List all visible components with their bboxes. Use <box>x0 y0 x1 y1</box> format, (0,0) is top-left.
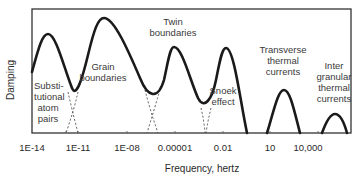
transverse-thermal-peak <box>267 90 300 133</box>
svg-text:Inter: Inter <box>324 60 343 71</box>
tick-label: 0.01 <box>214 142 233 153</box>
svg-text:thermal: thermal <box>267 55 299 66</box>
svg-text:boundaries: boundaries <box>149 27 196 38</box>
annotation-twin-boundaries: Twin boundaries <box>149 16 196 38</box>
svg-text:Substi-: Substi- <box>34 80 64 91</box>
svg-text:tutional: tutional <box>34 91 65 102</box>
svg-text:currents: currents <box>266 66 301 77</box>
svg-text:thermal: thermal <box>318 82 350 93</box>
tick-label: 0.00001 <box>158 142 192 153</box>
svg-text:currents: currents <box>317 93 352 104</box>
annotation-snoek-effect: Snoek effect <box>210 85 237 107</box>
svg-text:Transverse: Transverse <box>259 44 306 55</box>
x-axis-label: Frequency, hertz <box>165 163 239 174</box>
annotation-transverse-thermal-currents: Transverse thermal currents <box>259 44 306 77</box>
svg-text:Grain: Grain <box>91 61 114 72</box>
annotation-substitutional-atom-pairs: Substi- tutional atom pairs <box>34 80 65 124</box>
svg-text:granular: granular <box>317 71 352 82</box>
intergranular-thermal-peak <box>322 114 347 133</box>
svg-text:effect: effect <box>211 96 234 107</box>
svg-text:boundaries: boundaries <box>79 72 126 83</box>
svg-text:atom: atom <box>37 102 58 113</box>
tick-label: 10,000 <box>293 142 322 153</box>
dashed-peak-tails <box>66 90 211 133</box>
annotation-intergranular-thermal-currents: Inter granular thermal currents <box>317 60 352 104</box>
svg-text:Snoek: Snoek <box>210 85 237 96</box>
damping-curve <box>32 18 247 133</box>
svg-text:pairs: pairs <box>38 113 59 124</box>
y-axis-label: Damping <box>5 60 16 100</box>
tick-label: 1E-11 <box>66 142 91 153</box>
tick-label: 1E-08 <box>114 142 139 153</box>
x-axis-tick-labels: 1E-14 1E-11 1E-08 0.00001 0.01 10 10,000 <box>19 142 322 153</box>
damping-spectrum-chart: Damping 1E-14 1E-11 1E-08 0.00001 0.01 1… <box>0 0 360 182</box>
tick-label: 10 <box>265 142 276 153</box>
tick-label: 1E-14 <box>19 142 44 153</box>
svg-text:Twin: Twin <box>163 16 183 27</box>
